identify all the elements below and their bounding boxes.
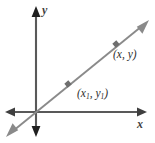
point-label-x1y1: (x1, y1) xyxy=(77,88,108,100)
graph-canvas xyxy=(0,0,155,143)
x-axis-left-arrow-icon xyxy=(5,108,15,117)
plotted-line-start-arrow-icon xyxy=(6,123,18,137)
point-label-x1y1-sub-y: 1 xyxy=(101,92,105,101)
y-axis-up-arrow-icon xyxy=(32,6,41,17)
plotted-line xyxy=(13,26,142,131)
y-axis-label: y xyxy=(42,4,47,16)
point-label-x1y1-close: ) xyxy=(104,87,108,99)
point-marker-x1y1 xyxy=(64,80,71,87)
point-label-xy: (x, y) xyxy=(113,49,137,61)
point-label-x1y1-mid: , y xyxy=(90,87,101,99)
point-marker-xy xyxy=(112,40,119,47)
x-axis-right-arrow-icon xyxy=(137,108,147,117)
plotted-line-end-arrow-icon xyxy=(137,20,149,34)
point-label-x1y1-open: (x xyxy=(77,87,86,99)
x-axis-label: x xyxy=(137,118,143,130)
point-label-x1y1-sub-x: 1 xyxy=(86,92,90,101)
y-axis-down-arrow-icon xyxy=(32,126,41,137)
graph-figure: y x (x, y) (x1, y1) xyxy=(0,0,155,143)
